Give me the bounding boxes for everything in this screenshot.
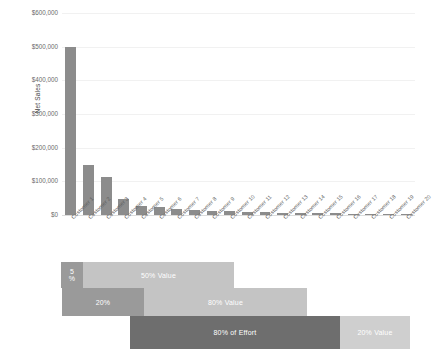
pareto-block-effort: 20% (62, 288, 144, 316)
pareto-effort-value-diagram: 5%50% Value20%80% Value80% of Effort20% … (0, 255, 423, 355)
y-axis-tick-label: $100,000 (10, 177, 58, 184)
pareto-block-value: 20% Value (340, 316, 410, 349)
x-axis-tick-labels: Customer 1Customer 2Customer 3Customer 4… (62, 216, 415, 256)
gridline (62, 13, 415, 14)
pareto-block-effort: 80% of Effort (130, 316, 340, 349)
pareto-block-label: 20% (96, 299, 111, 306)
pareto-block-effort: 5% (61, 262, 83, 288)
pareto-block-label: % (69, 275, 75, 282)
pareto-block-value: 80% Value (144, 288, 307, 316)
pareto-block-label: 20% Value (357, 329, 392, 336)
y-axis-tick-label: $500,000 (10, 43, 58, 50)
pareto-block-label: 50% Value (141, 272, 176, 279)
plot-area (62, 13, 415, 215)
pareto-block-label: 5 (70, 268, 74, 275)
gridline (62, 114, 415, 115)
pareto-block-value: 50% Value (83, 262, 234, 288)
gridline (62, 80, 415, 81)
gridline (62, 148, 415, 149)
y-axis-tick-label: $300,000 (10, 110, 58, 117)
pareto-bar-chart: Net Sales $0$100,000$200,000$300,000$400… (0, 0, 423, 250)
pareto-block-label: 80% of Effort (214, 329, 257, 336)
y-axis-tick-label: $600,000 (10, 9, 58, 16)
pareto-block-label: 80% Value (208, 299, 243, 306)
gridline (62, 181, 415, 182)
y-axis-tick-label: $400,000 (10, 76, 58, 83)
y-axis-tick-labels: $0$100,000$200,000$300,000$400,000$500,0… (10, 0, 58, 220)
y-axis-tick-label: $200,000 (10, 144, 58, 151)
gridline (62, 47, 415, 48)
y-axis-tick-label: $0 (10, 211, 58, 218)
bar (65, 47, 76, 215)
